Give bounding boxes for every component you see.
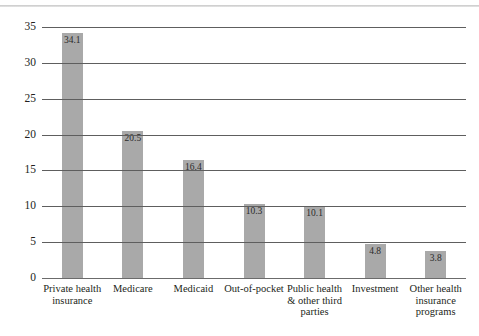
- bar-value-label: 34.1: [62, 35, 83, 45]
- gridline-30: [42, 63, 466, 64]
- y-tick-label-10: 10: [6, 200, 36, 212]
- x-label-line: insurance: [405, 295, 466, 307]
- bar: 4.8: [365, 244, 386, 278]
- x-label-line: Out-of-pocket: [224, 283, 285, 295]
- x-label-line: programs: [405, 306, 466, 318]
- x-label-line: Medicaid: [163, 283, 224, 295]
- x-category-label: Investment: [345, 283, 406, 295]
- gridline-25: [42, 99, 466, 100]
- bar-value-label: 4.8: [365, 246, 386, 256]
- gridline-35: [42, 27, 466, 28]
- gridline-20: [42, 135, 466, 136]
- bar-value-label: 10.3: [244, 206, 265, 216]
- plot-area: 34.120.516.410.310.14.83.8: [42, 27, 466, 278]
- x-label-line: Private health: [42, 283, 103, 295]
- axis-baseline: [42, 278, 466, 279]
- y-tick-label-35: 35: [6, 21, 36, 33]
- top-divider-rule: [0, 5, 479, 7]
- y-tick-label-15: 15: [6, 164, 36, 176]
- chart-page: 05101520253035 34.120.516.410.310.14.83.…: [0, 0, 479, 336]
- bar: 16.4: [183, 160, 204, 278]
- bar: 20.5: [122, 131, 143, 278]
- x-category-label: Out-of-pocket: [224, 283, 285, 295]
- bar-value-label: 3.8: [425, 253, 446, 263]
- y-axis-tick-labels: 05101520253035: [0, 27, 36, 278]
- gridline-10: [42, 206, 466, 207]
- x-label-line: Investment: [345, 283, 406, 295]
- x-category-label: Private healthinsurance: [42, 283, 103, 306]
- y-tick-label-0: 0: [6, 272, 36, 284]
- x-category-label: Other healthinsuranceprograms: [405, 283, 466, 318]
- bar: 3.8: [425, 251, 446, 278]
- x-label-line: & other third: [284, 295, 345, 307]
- x-label-line: Medicare: [103, 283, 164, 295]
- bar: 10.3: [244, 204, 265, 278]
- y-tick-label-25: 25: [6, 93, 36, 105]
- x-category-label: Medicaid: [163, 283, 224, 295]
- gridline-15: [42, 170, 466, 171]
- x-label-line: Other health: [405, 283, 466, 295]
- y-tick-label-30: 30: [6, 57, 36, 69]
- gridline-5: [42, 242, 466, 243]
- x-category-label: Public health& other thirdparties: [284, 283, 345, 318]
- x-label-line: Public health: [284, 283, 345, 295]
- x-label-line: parties: [284, 306, 345, 318]
- x-label-line: insurance: [42, 295, 103, 307]
- bar-value-label: 10.1: [304, 208, 325, 218]
- y-tick-label-20: 20: [6, 129, 36, 141]
- y-tick-label-5: 5: [6, 236, 36, 248]
- x-category-label: Medicare: [103, 283, 164, 295]
